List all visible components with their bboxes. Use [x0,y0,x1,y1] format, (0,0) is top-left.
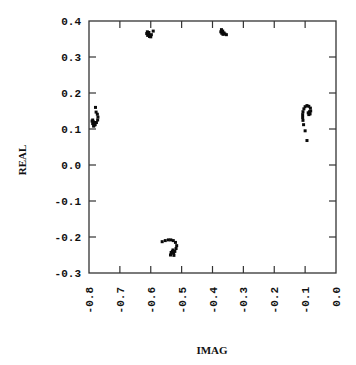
y-tick-label: 0.3 [61,52,81,64]
data-point [301,119,304,122]
data-point [220,28,223,31]
y-tick-label: 0.2 [61,88,81,100]
data-point [302,107,305,110]
data-point [161,240,164,243]
series-cluster-top-left [145,30,154,39]
data-point [225,33,228,36]
x-tick-label: -0.5 [177,287,189,314]
y-tick-label: -0.3 [55,268,82,280]
x-axis-title: IMAG [196,344,228,356]
series-cluster-top-right [219,28,228,36]
data-point [301,110,304,113]
x-tick-label: -0.1 [300,287,312,314]
x-tick-label: -0.8 [84,287,96,314]
x-tick-label: -0.3 [238,287,250,314]
data-point [164,239,167,242]
x-tick-label: 0.0 [331,287,343,307]
y-tick-label: 0.4 [61,16,81,28]
x-tick-label: -0.7 [115,287,127,313]
data-point [96,119,99,122]
data-point [152,30,155,33]
data-point [304,129,307,132]
scatter-chart: -0.8-0.7-0.6-0.5-0.4-0.3-0.2-0.10.0 0.40… [0,0,356,365]
data-point [302,123,305,126]
data-point [301,116,304,119]
data-point [301,113,304,116]
data-point [172,254,175,257]
data-point [173,250,176,253]
series-cluster-left [91,106,100,128]
y-tick-label: -0.1 [55,196,82,208]
data-point [309,112,312,115]
data-point [95,111,98,114]
data-point [96,116,99,119]
data-point [167,238,170,241]
plot-frame [89,21,336,273]
y-tick-label: -0.2 [55,232,81,244]
y-tick-label: 0.1 [61,124,81,136]
data-points [91,28,313,257]
y-tick-label: 0.0 [61,160,81,172]
x-axis-ticks: -0.8-0.7-0.6-0.5-0.4-0.3-0.2-0.10.0 [84,21,343,313]
y-axis-title: REAL [16,145,28,176]
data-point [94,106,97,109]
x-tick-label: -0.6 [146,287,158,313]
series-cluster-right [301,104,312,142]
series-cluster-bottom [161,238,179,256]
x-tick-label: -0.2 [269,287,281,313]
data-point [150,33,153,36]
data-point [175,247,178,250]
data-point [91,119,94,122]
data-point [309,110,312,113]
x-tick-label: -0.4 [208,287,220,314]
data-point [175,244,178,247]
data-point [169,254,172,257]
data-point [305,139,308,142]
y-axis-ticks: 0.40.30.20.10.0-0.1-0.2-0.3 [55,16,336,280]
